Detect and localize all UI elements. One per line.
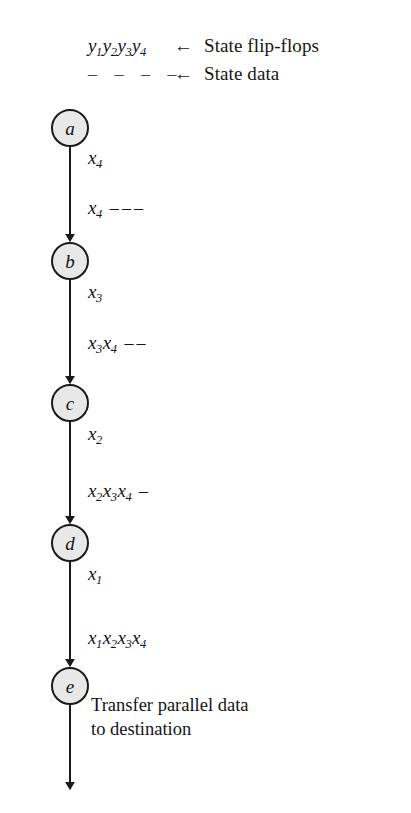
chain-graphics — [0, 0, 411, 813]
edge-input-label-c-d: x2 — [88, 424, 103, 447]
edge-state-label-b-c: x3x4–– — [88, 333, 149, 356]
state-node-b[interactable] — [52, 243, 88, 279]
state-diagram: a b c d e y1y2y3y4←State flip-flops – – … — [0, 0, 411, 813]
state-node-a[interactable] — [52, 110, 88, 146]
state-node-e[interactable] — [52, 668, 88, 704]
legend-row-state-data: – – – –←State data — [88, 64, 279, 84]
edge-state-label-c-d: x2x3x4– — [88, 481, 151, 504]
edge-state-label-d-e: x1x2x3x4 — [88, 628, 147, 651]
edge-input-label-d-e: x1 — [88, 564, 103, 587]
left-arrow-icon: ← — [174, 64, 204, 84]
left-arrow-icon: ← — [174, 36, 204, 56]
legend-label-state-data: State data — [204, 64, 279, 84]
legend-symbol-state-data: – – – – — [88, 65, 174, 84]
state-node-c[interactable] — [52, 385, 88, 421]
edge-state-label-a-b: x4––– — [88, 198, 146, 221]
legend-row-flip-flops: y1y2y3y4←State flip-flops — [88, 36, 319, 59]
exit-caption: Transfer parallel data to destination — [91, 694, 249, 741]
edge-input-label-a-b: x4 — [88, 148, 103, 171]
edge-input-label-b-c: x3 — [88, 282, 103, 305]
state-node-d[interactable] — [52, 525, 88, 561]
legend-symbol-state-flip-flops: y1y2y3y4 — [88, 36, 174, 59]
legend-label-state-flip-flops: State flip-flops — [204, 36, 319, 56]
